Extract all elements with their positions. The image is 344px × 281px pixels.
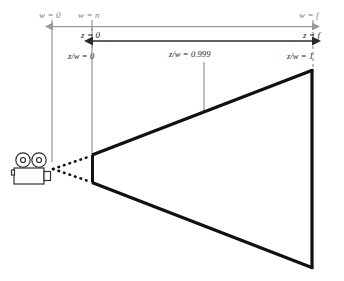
frustum-top-edge: [92, 70, 313, 155]
sight-line-lower: [53, 169, 91, 182]
label-z-far: z = f: [303, 31, 320, 40]
sight-line-upper: [53, 156, 91, 169]
label-zw-mid: z/w = 0.999: [169, 50, 211, 59]
camera-sight-lines: [53, 156, 91, 182]
movie-camera-icon: [12, 153, 51, 184]
label-w-zero: w = 0: [39, 11, 61, 20]
label-zw-zero: z/w = 0: [68, 52, 94, 61]
label-w-near: w = n: [78, 11, 100, 20]
label-z-zero: z = 0: [81, 31, 100, 40]
diagram-canvas: [0, 0, 344, 281]
frustum-diagram: w = 0 w = n w = f z = 0 z = f z/w = 0 z/…: [0, 0, 344, 281]
label-zw-one: z/w = 1: [287, 52, 313, 61]
label-w-far: w = f: [299, 11, 319, 20]
view-frustum: [92, 69, 313, 269]
frustum-bottom-edge: [92, 183, 313, 269]
